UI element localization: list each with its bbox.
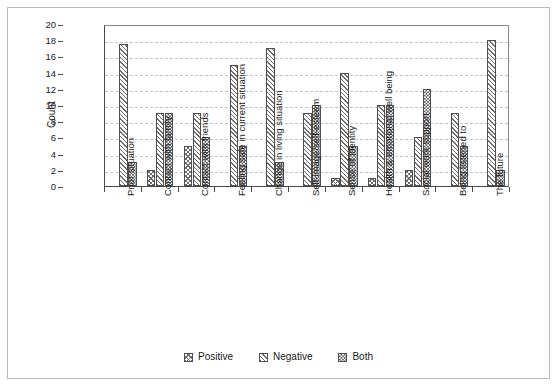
legend-item-negative[interactable]: Negative xyxy=(259,352,312,362)
x-axis-tick-label: Self-image/self-esteem xyxy=(311,99,321,196)
x-axis-tick-mark xyxy=(325,187,326,192)
x-axis-tick-mark xyxy=(362,187,363,192)
legend-label: Both xyxy=(352,352,373,362)
x-axis-tick-mark xyxy=(178,187,179,192)
y-axis-tick-label: 18 xyxy=(16,36,56,45)
y-axis-tick-mark xyxy=(58,90,63,91)
y-axis-tick-label: 20 xyxy=(16,20,56,29)
chart-legend: PositiveNegativeBoth xyxy=(8,352,549,362)
legend-item-positive[interactable]: Positive xyxy=(184,352,233,362)
y-axis-tick-label: 12 xyxy=(16,85,56,94)
x-axis-tick-mark xyxy=(435,187,436,192)
y-axis-tick-label: 2 xyxy=(16,166,56,175)
y-axis-tick-mark xyxy=(58,187,63,188)
bar-positive xyxy=(184,146,192,187)
x-axis-tick-label: Sense of identity xyxy=(347,126,357,196)
x-axis-tick-mark xyxy=(141,187,142,192)
x-axis-tick-mark xyxy=(472,187,473,192)
y-axis-tick-mark xyxy=(58,74,63,75)
y-axis-tick-mark xyxy=(58,25,63,26)
bar-positive xyxy=(368,178,376,186)
x-axis-tick-mark xyxy=(509,187,510,192)
x-axis-tick-label: Contact with family xyxy=(163,116,173,196)
figure-panel: 20181614121086420 Count Prior situationC… xyxy=(7,7,550,379)
x-axis-tick-label: Being listened to xyxy=(458,126,468,196)
y-axis-tick-label: 16 xyxy=(16,52,56,61)
x-axis-tick-mark xyxy=(214,187,215,192)
y-axis-tick-label: 4 xyxy=(16,150,56,159)
y-axis-tick-label: 14 xyxy=(16,69,56,78)
x-axis-tick-label: Social work support xyxy=(421,113,431,196)
legend-item-both[interactable]: Both xyxy=(338,352,373,362)
bar-positive xyxy=(331,178,339,186)
bar-positive xyxy=(147,170,155,186)
x-axis-tick-label: Change in living situation xyxy=(274,90,284,196)
x-axis-labels: Prior situationContact with familyContac… xyxy=(104,194,509,334)
y-axis-tick-mark xyxy=(58,41,63,42)
y-axis-tick-mark xyxy=(58,171,63,172)
bar-positive xyxy=(405,170,413,186)
y-axis-tick-label: 6 xyxy=(16,133,56,142)
legend-label: Positive xyxy=(198,352,233,362)
x-axis-tick-mark xyxy=(251,187,252,192)
legend-swatch-both-icon xyxy=(338,353,347,362)
x-axis-tick-label: Contact with friends xyxy=(200,113,210,196)
legend-swatch-positive-icon xyxy=(184,353,193,362)
x-axis-tick-label: Prior situation xyxy=(126,138,136,196)
x-axis-tick-mark xyxy=(399,187,400,192)
legend-swatch-negative-icon xyxy=(259,353,268,362)
x-axis-tick-mark xyxy=(288,187,289,192)
y-axis-tick-mark xyxy=(58,57,63,58)
y-axis-tick-mark xyxy=(58,106,63,107)
y-axis: 20181614121086420 xyxy=(8,8,104,188)
x-axis-tick-label: The future xyxy=(495,153,505,196)
legend-label: Negative xyxy=(273,352,312,362)
y-axis-tick-mark xyxy=(58,122,63,123)
x-axis-tick-label: Feeling safe in current situation xyxy=(237,64,247,196)
y-axis-tick-mark xyxy=(58,155,63,156)
x-axis-tick-label: Health & emotional well being xyxy=(384,71,394,196)
y-axis-title: Count xyxy=(46,101,57,128)
y-axis-tick-mark xyxy=(58,138,63,139)
x-axis-tick-mark xyxy=(104,187,105,192)
y-axis-tick-label: 0 xyxy=(16,182,56,191)
